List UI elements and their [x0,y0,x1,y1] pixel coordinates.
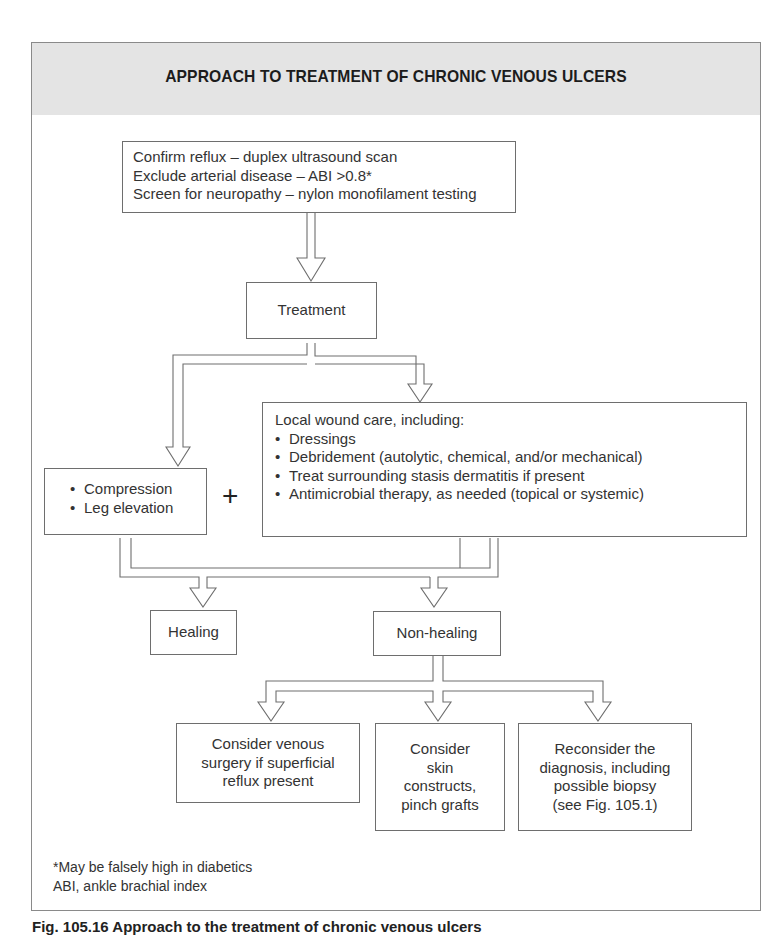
wound-care-item-stasis-dermatitis: Treat surrounding stasis dermatitis if p… [275,467,734,486]
arrow-to-non-healing [131,538,498,607]
skin-constructs-line: skin [401,759,479,778]
venous-surgery-box: Consider venous surgery if superficial r… [176,723,360,803]
venous-surgery-line: surgery if superficial [201,754,334,773]
compression-item: Compression [70,480,206,499]
arrow-to-healing [120,538,430,607]
wound-care-box: Local wound care, including: Dressings D… [262,402,747,537]
assessment-box: Confirm reflux – duplex ultrasound scan … [122,141,516,213]
skin-constructs-line: Consider [401,740,479,759]
non-healing-box: Non-healing [373,611,501,656]
skin-constructs-line: pinch grafts [401,796,479,815]
compression-box: Compression Leg elevation [44,468,207,535]
footnotes: *May be falsely high in diabetics ABI, a… [53,858,252,896]
arrow-assessment-to-treatment [297,212,325,281]
non-healing-label: Non-healing [397,624,478,643]
figure-caption: Fig. 105.16 Approach to the treatment of… [32,918,482,935]
wound-care-item-antimicrobial: Antimicrobial therapy, as needed (topica… [275,485,734,504]
reconsider-diagnosis-box: Reconsider the diagnosis, including poss… [518,723,692,831]
wound-care-heading: Local wound care, including: [275,411,734,430]
skin-constructs-line: constructs, [401,777,479,796]
reconsider-line: diagnosis, including [540,759,671,778]
leg-elevation-item: Leg elevation [70,499,206,518]
plus-symbol: + [222,480,238,512]
footnote-abi-diabetics: *May be falsely high in diabetics [53,858,252,877]
reconsider-line: (see Fig. 105.1) [540,796,671,815]
footnote-abi-definition: ABI, ankle brachial index [53,877,252,896]
healing-box: Healing [150,610,237,655]
reconsider-line: possible biopsy [540,777,671,796]
venous-surgery-line: reflux present [201,772,334,791]
wound-care-item-dressings: Dressings [275,430,734,449]
reconsider-line: Reconsider the [540,740,671,759]
treatment-box: Treatment [246,282,377,339]
treatment-label: Treatment [278,301,346,320]
assessment-line-reflux: Confirm reflux – duplex ultrasound scan [133,148,505,167]
venous-surgery-line: Consider venous [201,735,334,754]
arrow-treatment-to-wound-care [315,343,432,402]
healing-label: Healing [168,623,219,642]
assessment-line-arterial: Exclude arterial disease – ABI >0.8* [133,167,505,186]
skin-constructs-box: Consider skin constructs, pinch grafts [375,723,505,831]
assessment-line-neuropathy: Screen for neuropathy – nylon monofilame… [133,185,505,204]
arrow-non-healing-branches [258,655,611,721]
wound-care-item-debridement: Debridement (autolytic, chemical, and/or… [275,448,734,467]
